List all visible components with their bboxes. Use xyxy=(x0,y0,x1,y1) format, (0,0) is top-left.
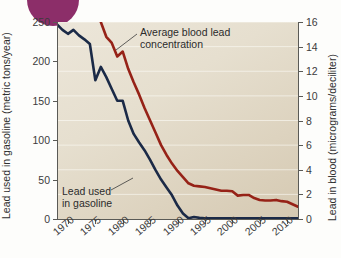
y-axis-left-line xyxy=(57,22,58,220)
y-axis-left-tick-label: 200 xyxy=(19,56,50,67)
y-axis-left-tick xyxy=(53,22,57,23)
y-axis-left-tick xyxy=(53,219,57,220)
y-axis-right-tick xyxy=(299,121,303,122)
y-axis-right-tick xyxy=(299,194,303,195)
annotation-blood-lead: Average blood lead concentration xyxy=(140,27,230,51)
figure-lead-trends: 050100150200250 0246810121416 1970197519… xyxy=(0,0,341,258)
y-axis-right-tick xyxy=(299,22,303,23)
y-axis-right-tick-label: 8 xyxy=(306,116,312,127)
y-axis-left-title: Lead used in gasoline (metric tons/year) xyxy=(1,32,12,219)
x-axis-tick-label: 1970 xyxy=(51,214,76,237)
y-axis-right-tick-label: 2 xyxy=(306,189,312,200)
y-axis-right-tick-label: 0 xyxy=(306,214,312,225)
y-axis-right-tick-label: 16 xyxy=(306,17,318,28)
y-axis-right-tick xyxy=(299,96,303,97)
y-axis-left-tick-label: 100 xyxy=(19,135,50,146)
y-axis-left-tick-label: 150 xyxy=(19,96,50,107)
y-axis-left-tick-label: 250 xyxy=(19,17,50,28)
y-axis-left-tick-label: 0 xyxy=(19,214,50,225)
y-axis-right-tick xyxy=(299,170,303,171)
y-axis-right-tick-label: 10 xyxy=(306,91,318,102)
y-axis-right-tick xyxy=(299,219,303,220)
y-axis-right-title: Lead in blood (micrograms/deciliter) xyxy=(327,54,338,221)
y-axis-right-tick xyxy=(299,47,303,48)
y-axis-left-tick xyxy=(53,140,57,141)
y-axis-right-tick-label: 6 xyxy=(306,140,312,151)
y-axis-right-tick-label: 14 xyxy=(306,42,318,53)
y-axis-right-tick-label: 4 xyxy=(306,165,312,176)
y-axis-left-tick xyxy=(53,180,57,181)
y-axis-left-tick-label: 50 xyxy=(19,175,50,186)
annotation-gasoline-lead: Lead used in gasoline xyxy=(62,186,112,210)
y-axis-left-tick xyxy=(53,101,57,102)
y-axis-right-tick-label: 12 xyxy=(306,66,318,77)
y-axis-left-tick xyxy=(53,61,57,62)
y-axis-right-tick xyxy=(299,145,303,146)
y-axis-right-tick xyxy=(299,71,303,72)
